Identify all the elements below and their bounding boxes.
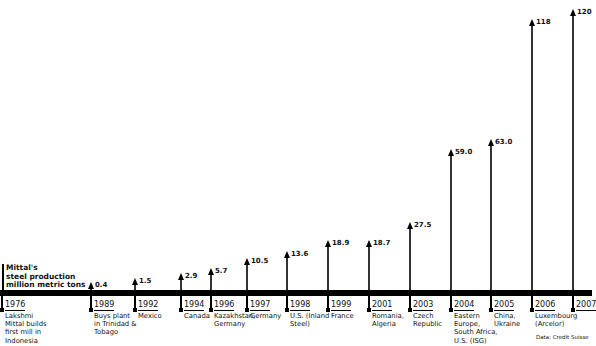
event-description: Buys plantin Trinidad &Tobago [94,312,137,337]
value-arrow-stem [409,228,411,290]
event-description-line: Czech [413,312,442,320]
arrow-head-icon [208,268,214,275]
year-label: 2005 [494,300,514,311]
event-description-line: Lakshmi [5,312,47,320]
event-description: Luxembourg(Arcelor) [535,312,577,328]
legend-line-3: million metric tons [6,281,86,290]
value-label: 63.0 [495,138,512,146]
timeline-bar [0,290,592,296]
event-description-line: (Arcelor) [535,320,577,328]
event-description-line: Romania, [372,312,404,320]
year-label: 2007 [576,300,596,311]
year-marker [209,308,213,312]
arrow-head-icon [178,273,184,280]
event-description: Germany [250,312,281,320]
value-label: 118 [536,18,551,26]
event-description-line: Eastern [454,312,497,320]
value-label: 0.4 [95,281,107,289]
value-label: 27.5 [414,221,431,229]
event-description: Canada [184,312,210,320]
year-marker [0,308,4,312]
year-label: 1998 [290,300,310,311]
arrow-head-icon [529,19,535,26]
event-description-line: Algeria [372,320,404,328]
year-label: 1996 [214,300,234,311]
value-label: 120 [577,8,592,16]
arrow-head-icon [366,240,372,247]
event-description-line: France [331,312,354,320]
value-arrow-stem [531,25,533,290]
value-arrow-stem [490,145,492,290]
event-description-line: China, [494,312,520,320]
year-marker [408,308,412,312]
year-marker [285,308,289,312]
arrow-head-icon [88,282,94,289]
legend-marker [2,264,4,290]
event-description-line: Luxembourg [535,312,577,320]
event-description-line: U.S. (ISG) [454,337,497,345]
year-label: 2004 [454,300,474,311]
value-arrow-stem [210,274,212,290]
event-description: CzechRepublic [413,312,442,328]
year-label: 1994 [184,300,204,311]
value-label: 10.5 [251,257,268,265]
arrow-head-icon [488,139,494,146]
event-description-line: Republic [413,320,442,328]
arrow-head-icon [570,9,576,16]
chart-legend: Mittal's steel production million metric… [6,264,86,290]
value-arrow-stem [286,257,288,290]
value-arrow-stem [180,279,182,290]
year-label: 2003 [413,300,433,311]
year-marker [179,308,183,312]
event-description-line: Tobago [94,328,137,336]
year-label: 1992 [138,300,158,311]
source-note: Data: Credit Suisse [536,334,589,340]
event-description-line: South Africa, [454,328,497,336]
value-arrow-stem [246,264,248,290]
year-label: 1989 [94,300,114,311]
year-marker [489,308,493,312]
value-label: 18.9 [332,239,349,247]
event-description: China,Ukraine [494,312,520,328]
year-marker [449,308,453,312]
arrow-head-icon [284,251,290,258]
event-description: EasternEurope,South Africa,U.S. (ISG) [454,312,497,345]
value-label: 13.6 [291,250,308,258]
arrow-head-icon [407,222,413,229]
year-marker [245,308,249,312]
event-description-line: first mill in [5,328,47,336]
year-marker [367,308,371,312]
value-arrow-stem [572,15,574,290]
event-description-line: Germany [250,312,281,320]
value-label: 1.5 [139,277,151,285]
event-description: U.S. (InlandSteel) [290,312,329,328]
year-marker [89,308,93,312]
value-label: 2.9 [185,272,197,280]
event-description-line: Mexico [138,312,162,320]
event-description-line: Mittal builds [5,320,47,328]
value-arrow-stem [450,155,452,290]
year-marker [530,308,534,312]
event-description-line: Indonesia [5,337,47,345]
event-description-line: Steel) [290,320,329,328]
year-label: 1997 [250,300,270,311]
event-description-line: Europe, [454,320,497,328]
value-arrow-stem [327,246,329,290]
event-description: France [331,312,354,320]
year-marker [326,308,330,312]
value-label: 59.0 [455,148,472,156]
year-marker [133,308,137,312]
year-marker [571,308,575,312]
value-label: 18.7 [373,239,390,247]
arrow-head-icon [132,278,138,285]
event-description: Romania,Algeria [372,312,404,328]
event-description-line: in Trinidad & [94,320,137,328]
year-label: 1999 [331,300,351,311]
event-description-line: Ukraine [494,320,520,328]
value-arrow-stem [368,246,370,290]
event-description-line: Canada [184,312,210,320]
event-description-line: U.S. (Inland [290,312,329,320]
arrow-head-icon [448,149,454,156]
year-label: 1976 [5,300,25,311]
